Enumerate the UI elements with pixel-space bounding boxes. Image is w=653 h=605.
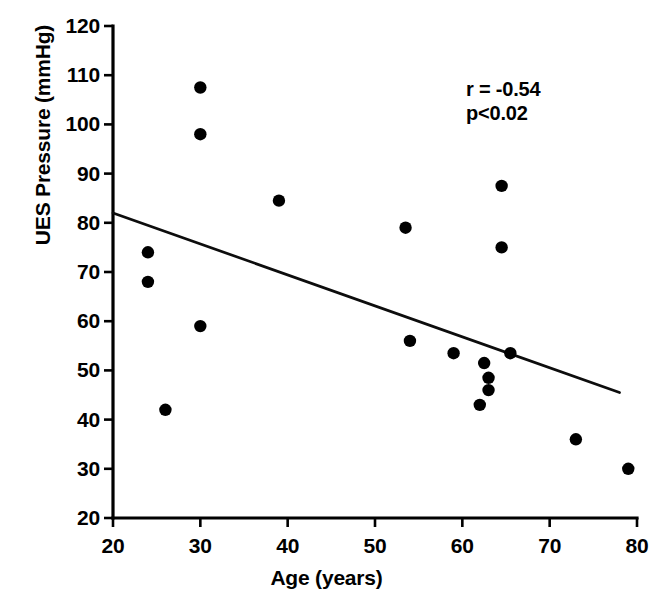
scatter-chart-figure: 2030405060708090100110120 20304050607080… — [0, 0, 653, 605]
regression-line — [113, 213, 620, 393]
data-point — [399, 222, 411, 234]
data-point — [273, 194, 285, 206]
y-tick-label: 50 — [40, 358, 100, 382]
data-points — [142, 81, 635, 475]
data-point — [194, 128, 206, 140]
y-axis-title: UES Pressure (mmHg) — [28, 0, 58, 285]
data-point — [495, 180, 507, 192]
data-point — [142, 246, 154, 258]
x-tick-label: 20 — [102, 534, 125, 558]
data-point — [474, 399, 486, 411]
x-tick-label: 50 — [364, 534, 387, 558]
y-tick-label: 40 — [40, 408, 100, 432]
data-point — [159, 404, 171, 416]
correlation-annotation: r = -0.54 — [466, 77, 540, 101]
data-point — [478, 357, 490, 369]
x-tick-label: 40 — [276, 534, 299, 558]
data-point — [194, 81, 206, 93]
x-tick-label: 30 — [189, 534, 212, 558]
x-tick-label: 70 — [538, 534, 561, 558]
x-tick-label: 80 — [626, 534, 649, 558]
statistics-annotation: r = -0.54 p<0.02 — [466, 77, 540, 126]
data-point — [482, 384, 494, 396]
regression-trend-line — [113, 213, 620, 393]
data-point — [495, 241, 507, 253]
data-point — [570, 433, 582, 445]
data-point — [194, 320, 206, 332]
x-axis-title: Age (years) — [0, 566, 653, 590]
data-point — [404, 335, 416, 347]
axes — [113, 26, 637, 518]
y-axis-title-text: UES Pressure (mmHg) — [31, 25, 55, 245]
x-tick-label: 60 — [451, 534, 474, 558]
y-tick-label: 30 — [40, 457, 100, 481]
y-tick-label: 60 — [40, 309, 100, 333]
data-point — [482, 372, 494, 384]
y-tick-label: 20 — [40, 506, 100, 530]
pvalue-annotation: p<0.02 — [466, 101, 540, 125]
data-point — [504, 347, 516, 359]
data-point — [622, 463, 634, 475]
data-point — [142, 276, 154, 288]
data-point — [447, 347, 459, 359]
